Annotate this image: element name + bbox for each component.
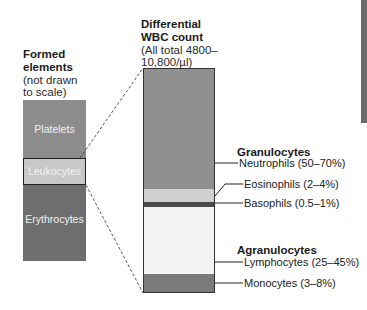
eosinophils-label: Eosinophils (2–4%) [244,178,339,190]
lymphocytes-label: Lymphocytes (25–45%) [244,256,359,268]
agranulocytes-heading: Agranulocytes [237,244,317,256]
neutrophils-label: Neutrophils (50–70%) [239,157,345,169]
monocytes-label: Monocytes (3–8%) [244,277,336,289]
basophils-label: Basophils (0.5–1%) [244,197,339,209]
